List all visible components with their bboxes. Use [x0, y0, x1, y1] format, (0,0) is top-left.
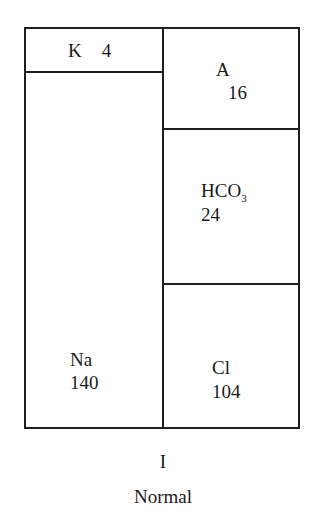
column-label: I	[0, 451, 318, 473]
unmeasured-anion-label: A	[216, 59, 230, 81]
bicarbonate-chloride-divider	[163, 283, 299, 285]
diagram-caption: Normal	[0, 486, 318, 508]
frame-left-border	[24, 27, 26, 429]
chloride-label: Cl	[212, 357, 230, 379]
bicarbonate-subscript: 3	[241, 192, 247, 204]
bicarbonate-value: 24	[201, 204, 220, 226]
potassium-value: 4	[102, 40, 112, 61]
cation-anion-divider	[162, 29, 164, 429]
potassium-segment: K4	[68, 40, 111, 62]
sodium-value: 140	[70, 372, 99, 394]
bicarbonate-segment: HCO3	[201, 180, 247, 204]
bicarbonate-label: HCO	[201, 180, 241, 201]
potassium-label: K	[68, 40, 82, 61]
potassium-sodium-divider	[24, 71, 163, 73]
anion-gap-bicarbonate-divider	[163, 128, 299, 130]
unmeasured-anion-value: 16	[228, 82, 247, 104]
sodium-label: Na	[70, 349, 92, 371]
frame-right-border	[298, 27, 300, 429]
chloride-value: 104	[212, 381, 241, 403]
